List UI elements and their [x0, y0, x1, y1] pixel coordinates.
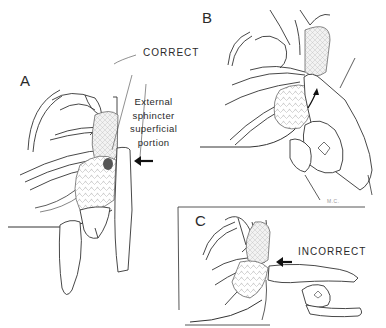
annotation-line: sphincter	[130, 109, 177, 123]
panel-label-c: C	[195, 212, 206, 229]
caption-correct: CORRECT	[143, 47, 199, 58]
caption-incorrect: INCORRECT	[298, 246, 366, 257]
panel-b-hand	[290, 58, 372, 200]
arrow-icon	[134, 156, 153, 166]
annotation-external-sphincter: External sphincter superficial portion	[130, 95, 177, 149]
leader-line-external	[114, 55, 136, 64]
panel-c-sphincter-tissue	[246, 222, 270, 264]
annotation-line: portion	[130, 136, 177, 150]
panel-a-dark-spot	[103, 158, 113, 170]
annotation-line: superficial	[130, 122, 177, 136]
annotation-line: External	[130, 95, 177, 109]
panel-c-hand	[262, 264, 362, 320]
artist-signature: M.C.	[327, 198, 340, 204]
panel-b-sphincter-tissue	[305, 27, 330, 76]
panel-c-rectal-tissue	[232, 261, 268, 298]
medical-illustration: A CORRECT B C INCORRECT External sphinct…	[0, 0, 386, 328]
panel-label-b: B	[202, 9, 213, 26]
panel-label-a: A	[20, 72, 31, 89]
